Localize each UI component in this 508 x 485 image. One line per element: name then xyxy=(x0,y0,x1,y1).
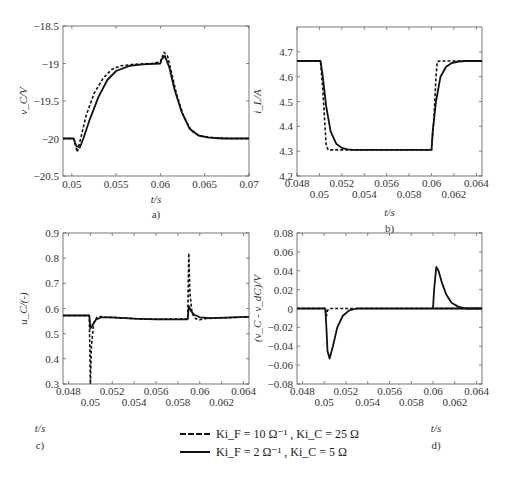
chart-panel-d: 0.0480.050.0520.0540.0560.0580.060.0620.… xyxy=(251,227,489,452)
x-tick-label: 0.06 xyxy=(423,385,443,397)
legend: Ki_F = 10 Ω⁻¹ , Ki_C = 25 Ω Ki_F = 2 Ω⁻¹… xyxy=(180,425,359,461)
series-solid-line xyxy=(433,267,482,309)
y-tick-label: 0.5 xyxy=(45,328,59,340)
y-tick-label: 0.7 xyxy=(45,277,59,289)
chart-panel-a: 0.050.0550.060.0650.07−18.5−19−19.5−20−2… xyxy=(17,20,259,221)
x-tick-label: 0.048 xyxy=(290,385,315,397)
y-tick-label: 4.3 xyxy=(279,145,293,157)
y-tick-label: −0.02 xyxy=(268,321,293,333)
y-tick-label: 0.06 xyxy=(274,246,294,258)
x-tick-label: 0.058 xyxy=(397,188,422,200)
legend-label-solid: Ki_F = 2 Ω⁻¹ , Ki_C = 5 Ω xyxy=(216,445,347,460)
y-tick-label: 4.7 xyxy=(279,46,293,58)
y-tick-label: −20 xyxy=(42,133,60,145)
y-tick-label: 4.2 xyxy=(279,170,293,182)
x-tick-label: 0.058 xyxy=(166,396,191,408)
x-tick-label: 0.052 xyxy=(329,177,354,189)
y-tick-label: −19 xyxy=(42,58,60,70)
x-tick-label: 0.064 xyxy=(464,385,489,397)
x-tick-label: 0.054 xyxy=(122,396,147,408)
x-tick-label: 0.05 xyxy=(62,178,82,190)
x-tick-label: 0.064 xyxy=(231,385,256,397)
x-axis-label: t/s xyxy=(431,422,441,434)
x-tick-label: 0.058 xyxy=(399,396,424,408)
series-solid-line xyxy=(297,309,482,359)
figure-canvas: 0.050.0550.060.0650.07−18.5−19−19.5−20−2… xyxy=(0,0,508,485)
x-tick-label: 0.05 xyxy=(310,188,330,200)
y-tick-label: 0.4 xyxy=(45,353,59,365)
x-axis-label: t/s xyxy=(35,422,45,434)
y-tick-label: 0.3 xyxy=(45,378,59,390)
y-tick-label: 0.9 xyxy=(45,227,59,239)
series-solid-line xyxy=(63,306,249,329)
y-tick-label: 0 xyxy=(288,303,294,315)
x-tick-label: 0.062 xyxy=(442,188,467,200)
x-tick-label: 0.054 xyxy=(352,188,377,200)
legend-entry-dashed: Ki_F = 10 Ω⁻¹ , Ki_C = 25 Ω xyxy=(180,425,359,443)
x-axis-label: t/s xyxy=(151,193,161,205)
y-tick-label: −20.5 xyxy=(34,170,60,182)
y-tick-label: −18.5 xyxy=(34,20,60,32)
series-solid-line xyxy=(297,61,482,150)
y-axis-label: i_L/A xyxy=(251,89,263,114)
y-axis-label: (v_C - v_dC)/V xyxy=(251,274,264,342)
panel-label: d) xyxy=(431,439,441,452)
x-tick-label: 0.05 xyxy=(81,396,101,408)
chart-panel-b: 0.0480.050.0520.0540.0560.0580.060.0620.… xyxy=(251,27,489,235)
x-tick-label: 0.05 xyxy=(315,396,335,408)
y-tick-label: −0.08 xyxy=(268,378,294,390)
y-tick-label: 0.04 xyxy=(274,265,294,277)
x-tick-label: 0.054 xyxy=(355,396,380,408)
x-tick-label: 0.064 xyxy=(464,177,489,189)
legend-entry-solid: Ki_F = 2 Ω⁻¹ , Ki_C = 5 Ω xyxy=(180,443,359,461)
y-axis-label: u_C/(-) xyxy=(17,292,30,325)
legend-label-dashed: Ki_F = 10 Ω⁻¹ , Ki_C = 25 Ω xyxy=(216,427,359,442)
x-tick-label: 0.062 xyxy=(209,396,234,408)
dashed-line-swatch xyxy=(180,433,210,435)
y-tick-label: −0.04 xyxy=(268,340,294,352)
series-dashed-line xyxy=(63,52,249,152)
series-dashed-line xyxy=(297,61,482,150)
y-tick-label: −19.5 xyxy=(34,95,60,107)
y-tick-label: 0.6 xyxy=(45,303,59,315)
chart-panel-c: 0.0480.050.0520.0540.0560.0580.060.0620.… xyxy=(17,227,256,452)
y-tick-label: 0.02 xyxy=(274,284,293,296)
x-tick-label: 0.07 xyxy=(239,178,259,190)
solid-line-swatch xyxy=(180,451,210,453)
x-tick-label: 0.062 xyxy=(442,396,467,408)
panel-label: a) xyxy=(152,208,161,221)
y-tick-label: 4.6 xyxy=(279,71,293,83)
panel-label: c) xyxy=(36,439,45,452)
y-tick-label: 0.08 xyxy=(274,227,294,239)
y-axis-label: v_C/V xyxy=(17,86,29,115)
y-tick-label: 4.4 xyxy=(279,120,293,132)
x-tick-label: 0.065 xyxy=(192,178,217,190)
x-tick-label: 0.06 xyxy=(422,177,442,189)
x-axis-label: t/s xyxy=(384,206,394,218)
y-tick-label: −0.06 xyxy=(268,359,294,371)
x-tick-label: 0.06 xyxy=(190,385,210,397)
x-tick-label: 0.06 xyxy=(151,178,171,190)
x-tick-label: 0.048 xyxy=(56,385,81,397)
y-tick-label: 4.5 xyxy=(279,96,293,108)
x-tick-label: 0.055 xyxy=(104,178,129,190)
y-tick-label: 0.8 xyxy=(45,252,59,264)
